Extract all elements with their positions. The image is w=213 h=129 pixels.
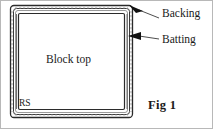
block-top-label: Block top [46,54,91,66]
quilt-diagram-svg [1,1,213,129]
batting-leader-line [139,36,159,39]
figure-caption: Fig 1 [148,99,176,112]
batting-label: Batting [162,34,196,46]
backing-label: Backing [162,8,200,20]
right-side-label: RS [19,99,31,109]
figure-container: Backing Batting Block top RS Fig 1 [0,0,213,129]
